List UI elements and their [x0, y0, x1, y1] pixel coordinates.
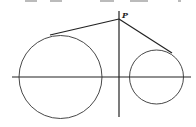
tangent-line-left [50, 19, 119, 35]
tangent-circles-diagram [0, 0, 196, 127]
point-p-label: P [122, 10, 128, 20]
cropped-text-fragments [25, 0, 181, 2]
tangent-line-right [119, 19, 172, 53]
